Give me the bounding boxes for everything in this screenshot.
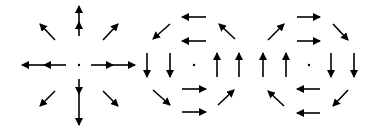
vector-arrow-icon (333, 90, 348, 106)
vector-arrow-icon (218, 90, 234, 105)
vector-arrow-icon (40, 24, 55, 40)
vector-field-diagram (0, 0, 381, 131)
vector-arrow-icon (40, 91, 55, 106)
vector-arrow-icon (219, 24, 235, 39)
counterclockwise-rotation-panel (147, 17, 239, 112)
vector-arrow-icon (103, 91, 118, 106)
origin-dot (78, 64, 80, 66)
vector-arrow-icon (153, 24, 170, 39)
vector-arrow-icon (333, 24, 348, 40)
vector-arrow-icon (268, 24, 284, 40)
vector-arrow-icon (153, 90, 170, 105)
clockwise-rotation-panel (263, 17, 354, 113)
origin-dot (193, 64, 195, 66)
vector-arrow-icon (268, 91, 284, 106)
vector-arrow-icon (103, 24, 118, 40)
origin-dot (308, 64, 310, 66)
radial-outward-panel (22, 6, 135, 125)
